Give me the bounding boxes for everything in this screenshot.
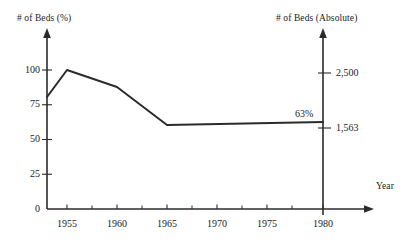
chart-plot-area <box>0 0 418 251</box>
data-series-line <box>47 70 323 125</box>
left-y-axis <box>42 28 52 209</box>
x-axis <box>47 205 374 213</box>
chart-figure: # of Beds (%) # of Beds (Absolute) Year … <box>0 0 418 251</box>
